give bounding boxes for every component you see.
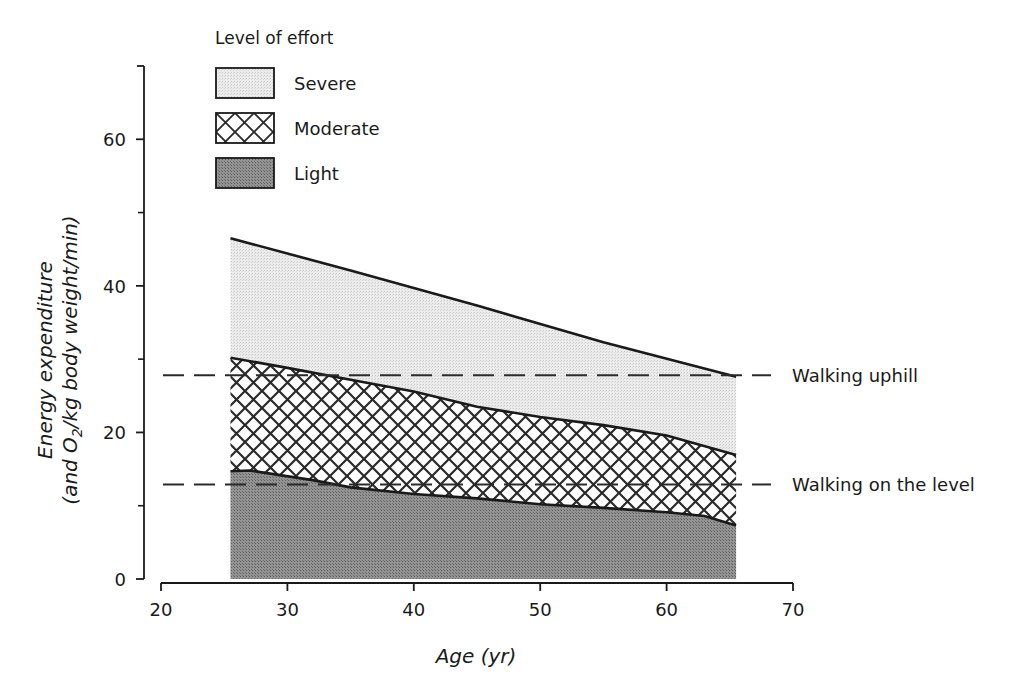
x-axis-title: Age (yr) [434, 644, 517, 668]
legend-title: Level of effort [215, 28, 334, 48]
legend-swatch-moderate [216, 113, 274, 143]
x-tick-label: 20 [150, 599, 173, 620]
reference-label-walking-level: Walking on the level [792, 474, 975, 495]
x-tick-label: 40 [402, 599, 425, 620]
legend-item-severe: Severe [216, 68, 356, 98]
x-axis: 203040506070 [150, 583, 805, 620]
legend-swatch-light [216, 158, 274, 188]
x-tick-label: 30 [276, 599, 299, 620]
x-tick-label: 60 [655, 599, 678, 620]
legend: Level of effort Severe Moderate Light [215, 28, 380, 188]
y-axis-title: Energy expenditure (and O2/kg body weigh… [33, 215, 85, 504]
legend-label-moderate: Moderate [294, 118, 380, 139]
y-axis-title-line1: Energy expenditure [33, 261, 57, 459]
chart-figure: Walking uphill Walking on the level 0204… [0, 0, 1016, 696]
legend-label-severe: Severe [294, 73, 356, 94]
stacked-areas [231, 238, 737, 579]
legend-item-moderate: Moderate [216, 113, 380, 143]
y-tick-label: 0 [115, 569, 126, 590]
y-tick-label: 20 [103, 422, 126, 443]
y-axis: 0204060 [103, 66, 144, 590]
legend-swatch-severe [216, 68, 274, 98]
reference-label-walking-uphill: Walking uphill [792, 365, 918, 386]
x-tick-label: 50 [529, 599, 552, 620]
legend-label-light: Light [294, 163, 339, 184]
y-tick-label: 40 [103, 276, 126, 297]
legend-item-light: Light [216, 158, 339, 188]
y-axis-title-line2: (and O2/kg body weight/min) [58, 215, 85, 504]
x-tick-label: 70 [782, 599, 805, 620]
y-tick-label: 60 [103, 129, 126, 150]
